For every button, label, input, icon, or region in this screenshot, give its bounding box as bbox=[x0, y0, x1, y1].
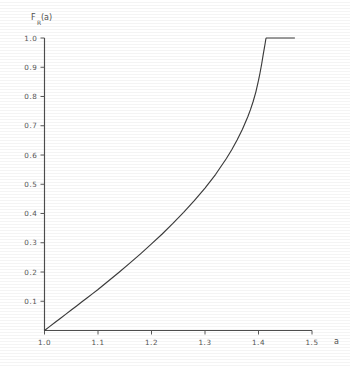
chart-background bbox=[0, 0, 350, 366]
y-tick-label: 0.8 bbox=[24, 92, 37, 101]
y-tick-label: 0.1 bbox=[24, 297, 37, 306]
x-tick-label: 1.4 bbox=[252, 338, 265, 347]
y-axis-title-base: F bbox=[31, 13, 36, 22]
x-axis-title: a bbox=[334, 337, 339, 346]
chart-plot: F R (a) a 0.10.20.30.40.50.60.70.80.91.0… bbox=[0, 0, 350, 366]
y-tick-label: 1.0 bbox=[24, 34, 37, 43]
x-tick-label: 1.0 bbox=[38, 338, 51, 347]
figure-container: F R (a) a 0.10.20.30.40.50.60.70.80.91.0… bbox=[0, 0, 350, 366]
x-tick-label: 1.5 bbox=[305, 338, 318, 347]
y-tick-label: 0.3 bbox=[24, 238, 37, 247]
x-tick-label: 1.1 bbox=[91, 338, 104, 347]
x-tick-label: 1.3 bbox=[198, 338, 211, 347]
y-tick-label: 0.4 bbox=[24, 209, 37, 218]
y-tick-label: 0.7 bbox=[24, 121, 37, 130]
y-tick-label: 0.9 bbox=[24, 63, 37, 72]
y-tick-label: 0.5 bbox=[24, 180, 37, 189]
y-tick-label: 0.2 bbox=[24, 268, 37, 277]
x-tick-label: 1.2 bbox=[145, 338, 158, 347]
y-axis-title-argument: (a) bbox=[41, 13, 52, 22]
y-tick-label: 0.6 bbox=[24, 151, 37, 160]
